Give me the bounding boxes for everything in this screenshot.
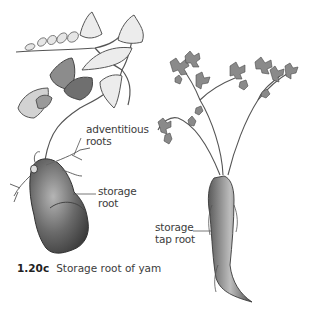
figure-caption-text: Storage root of yam — [56, 262, 161, 274]
label-adventitious-roots: adventitious roots — [86, 124, 149, 147]
carrot-leaves — [158, 68, 290, 175]
label-storage-root: storage root — [98, 186, 137, 209]
figure-number: 1.20c — [17, 262, 49, 274]
label-storage-tap-root: storage tap root — [155, 222, 195, 245]
figure-caption: 1.20cStorage root of yam — [17, 262, 161, 274]
